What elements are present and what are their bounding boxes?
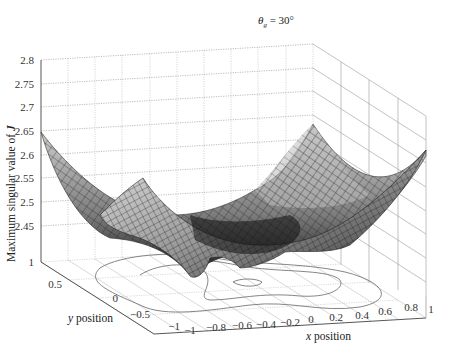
svg-text:−0.6: −0.6: [232, 319, 252, 331]
svg-text:2.8: 2.8: [20, 54, 34, 66]
svg-text:−1: −1: [184, 324, 196, 336]
z-ticks: 2.8 2.75 2.7 2.65 2.6 2.55 2.5 2.45 1: [15, 54, 35, 268]
svg-text:−0.5: −0.5: [130, 308, 150, 320]
svg-text:0: 0: [113, 292, 119, 304]
svg-text:0: 0: [308, 313, 314, 325]
svg-text:0.8: 0.8: [404, 301, 418, 313]
svg-text:2.65: 2.65: [15, 125, 35, 137]
svg-text:−0.4: −0.4: [256, 318, 276, 330]
svg-text:2.5: 2.5: [20, 196, 34, 208]
z-axis-label: Maximum singular value of J: [5, 124, 18, 262]
y-axis-label: y position: [67, 312, 113, 325]
svg-text:0.4: 0.4: [355, 309, 369, 321]
svg-text:0.2: 0.2: [329, 311, 343, 323]
svg-text:2.7: 2.7: [20, 101, 34, 113]
svg-text:2.75: 2.75: [15, 78, 35, 90]
svg-text:−1: −1: [168, 320, 180, 332]
svg-text:0.6: 0.6: [378, 305, 392, 317]
svg-text:2.45: 2.45: [15, 220, 35, 232]
chart-canvas: 2.8 2.75 2.7 2.65 2.6 2.55 2.5 2.45 1 0.…: [0, 0, 452, 357]
svg-text:1: 1: [428, 303, 434, 315]
svg-text:1: 1: [29, 256, 35, 268]
x-axis-label: x position: [305, 330, 351, 343]
svg-text:2.6: 2.6: [20, 149, 34, 161]
chart-title: θg = 30°: [258, 14, 294, 29]
svg-text:2.55: 2.55: [15, 172, 35, 184]
surface-plot: [41, 124, 426, 277]
svg-text:−0.2: −0.2: [280, 316, 300, 328]
svg-text:−0.8: −0.8: [206, 321, 226, 333]
svg-text:0.5: 0.5: [48, 278, 62, 290]
